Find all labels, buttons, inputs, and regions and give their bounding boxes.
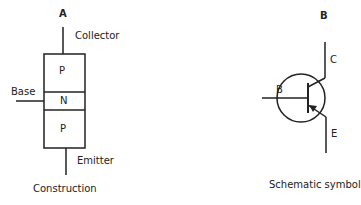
collector-label: Collector <box>75 30 119 41</box>
symbol-b-label: B <box>276 84 283 95</box>
schematic-caption: Schematic symbol <box>269 179 361 190</box>
panel-b-letter: B <box>320 10 328 21</box>
emitter-label: Emitter <box>77 155 114 166</box>
base-label: Base <box>11 86 35 97</box>
layer-n: N <box>60 95 67 106</box>
symbol-c-label: C <box>330 54 337 65</box>
layer-p-bottom: P <box>60 123 66 134</box>
symbol-e-label: E <box>331 128 337 139</box>
layer-p-top: P <box>59 65 65 76</box>
panel-a-letter: A <box>59 8 67 19</box>
construction-caption: Construction <box>33 183 97 194</box>
